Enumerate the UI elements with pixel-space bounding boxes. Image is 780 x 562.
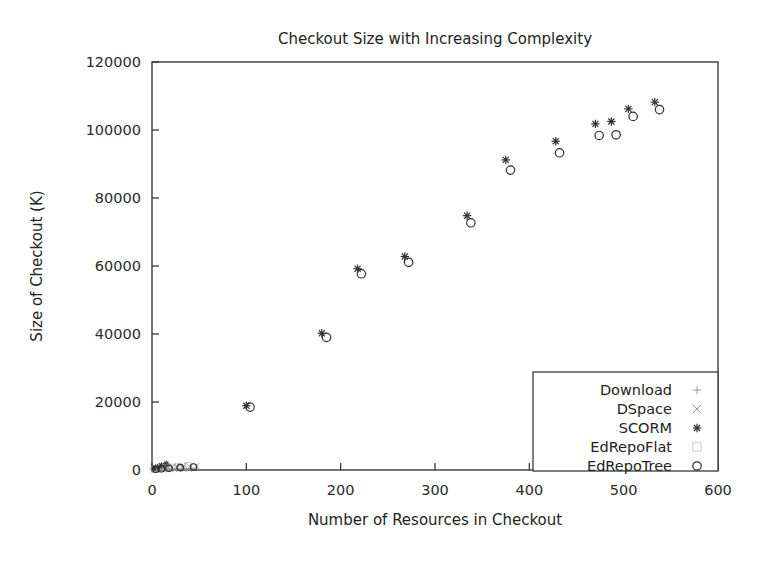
- chart-legend[interactable]: DownloadDSpaceSCORMEdRepoFlatEdRepoTree: [533, 372, 718, 474]
- scatter-chart: Checkout Size with Increasing Complexity…: [0, 0, 780, 562]
- data-point-marker: [555, 149, 563, 157]
- data-point-marker: [552, 137, 560, 145]
- x-tick-label: 600: [704, 482, 732, 498]
- data-point-marker: [591, 120, 599, 128]
- x-tick-label: 500: [610, 482, 638, 498]
- data-point-marker: [624, 105, 632, 113]
- x-axis-title: Number of Resources in Checkout: [308, 511, 562, 529]
- data-point-marker: [607, 117, 615, 125]
- legend-marker-scorm: [693, 424, 701, 432]
- x-tick-label: 200: [327, 482, 355, 498]
- data-point-marker: [612, 131, 620, 139]
- data-point-marker: [357, 270, 365, 278]
- legend-label-edrepoflat: EdRepoFlat: [590, 439, 672, 455]
- data-point-marker: [595, 131, 603, 139]
- y-tick-label: 40000: [95, 326, 141, 342]
- y-tick-label: 60000: [95, 258, 141, 274]
- y-tick-label: 0: [132, 462, 141, 478]
- y-tick-label: 120000: [86, 54, 141, 70]
- legend-label-dspace: DSpace: [617, 401, 672, 417]
- chart-title: Checkout Size with Increasing Complexity: [278, 30, 592, 48]
- y-axis-title: Size of Checkout (K): [28, 190, 46, 341]
- data-point-marker: [502, 156, 510, 164]
- x-tick-label: 0: [147, 482, 156, 498]
- legend-label-scorm: SCORM: [619, 420, 672, 436]
- data-point-marker: [506, 166, 514, 174]
- data-point-marker: [467, 219, 475, 227]
- x-tick-label: 100: [232, 482, 260, 498]
- legend-label-edrepotree: EdRepoTree: [587, 458, 672, 474]
- y-axis-ticks: 020000400006000080000100000120000: [86, 54, 159, 478]
- data-point-marker: [629, 112, 637, 120]
- y-tick-label: 20000: [95, 394, 141, 410]
- data-point-marker: [404, 258, 412, 266]
- data-point-marker: [655, 105, 663, 113]
- data-point-marker: [322, 333, 330, 341]
- chart-figure: Checkout Size with Increasing Complexity…: [0, 0, 780, 562]
- y-tick-label: 100000: [86, 122, 141, 138]
- legend-label-download: Download: [600, 382, 672, 398]
- data-point-marker: [651, 98, 659, 106]
- y-tick-label: 80000: [95, 190, 141, 206]
- x-tick-label: 300: [421, 482, 449, 498]
- x-tick-label: 400: [515, 482, 543, 498]
